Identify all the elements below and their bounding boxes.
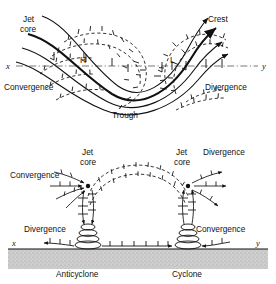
upper-axis-x-label: x	[5, 61, 10, 71]
lower-convergence-upper-label: Convergence	[10, 170, 60, 180]
high-pressure-marker: H	[80, 55, 86, 65]
upper-panel-group: x y	[4, 14, 266, 120]
upper-streamlines	[16, 16, 228, 115]
upper-jet-core-label-line2: core	[20, 24, 37, 34]
figure-canvas: x y	[0, 0, 276, 284]
upper-axis-y-label: y	[261, 61, 266, 71]
lower-panel-group: x y	[8, 147, 268, 279]
low-pressure-marker: L	[170, 55, 175, 65]
surface-divergence-flow	[44, 238, 172, 246]
surface-convergence-label: Convergence	[196, 224, 246, 234]
jet-core-left-symbol	[86, 184, 90, 188]
upper-divergence-label: Divergence	[205, 82, 247, 92]
upper-jet-core-label-line1: Jet	[23, 14, 35, 24]
surface-convergence-flow	[202, 238, 230, 246]
cyclone-label: Cyclone	[172, 269, 202, 279]
upper-left-barb-band	[40, 26, 146, 109]
lower-jet-core-left-line2: core	[80, 157, 97, 167]
lower-jet-core-right-line1: Jet	[176, 147, 188, 157]
upper-convergence-label: Convergence	[4, 82, 54, 92]
lower-jet-core-left-line1: Jet	[82, 147, 94, 157]
jet-core-right-symbol	[186, 184, 190, 188]
meteorology-figure: x y	[0, 0, 276, 284]
surface-divergence-label: Divergence	[24, 224, 66, 234]
trough-label: Trough	[112, 110, 138, 120]
crest-label: Crest	[208, 14, 229, 24]
anticyclone-descent-column	[78, 190, 96, 224]
lower-jet-core-right-line2: core	[174, 157, 191, 167]
anticyclone-spiral	[75, 224, 101, 249]
lower-circulation-arch	[88, 162, 188, 205]
right-divergence-outflow	[192, 170, 226, 206]
anticyclone-label: Anticyclone	[56, 269, 99, 279]
lower-axis-y-label: y	[255, 238, 260, 248]
ground-surface	[8, 249, 268, 269]
lower-axis-x-label: x	[11, 238, 16, 248]
lower-divergence-upper-label: Divergence	[203, 147, 245, 157]
